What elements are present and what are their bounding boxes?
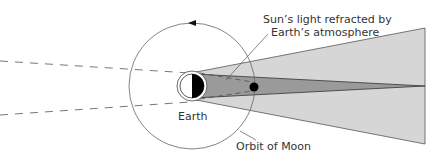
sunlight-ray-upper [0,61,190,73]
moon-orbit-label: Orbit of Moon [236,141,311,153]
orbit-label-leader [240,131,256,140]
refracted-light-label-line1: Sun’s light refracted by [263,14,392,26]
sunlight-ray-lower [0,102,190,115]
refracted-light-label-line2: Earth’s atmosphere [271,27,379,39]
orbit-direction-arrow-icon [188,20,196,26]
moon [250,83,259,92]
earth-label: Earth [178,111,208,123]
lunar-eclipse-diagram: Sun’s light refracted by Earth’s atmosph… [0,0,436,164]
